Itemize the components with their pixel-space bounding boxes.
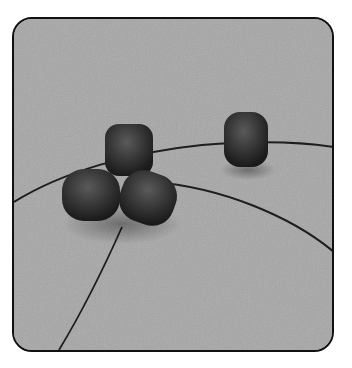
left-bead xyxy=(62,169,120,221)
single-right-bead xyxy=(224,112,268,167)
beads-photo xyxy=(14,19,332,350)
top-center-bead xyxy=(105,124,153,176)
photo-frame xyxy=(12,17,334,352)
